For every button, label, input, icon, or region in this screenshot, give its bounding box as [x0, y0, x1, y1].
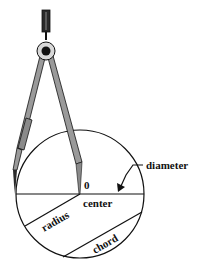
- compass-circle-diagram: 0 center diameter radius chord: [0, 0, 204, 269]
- diameter-label: diameter: [146, 159, 188, 171]
- center-label: center: [83, 197, 112, 209]
- radius-label: radius: [39, 208, 72, 234]
- center-mark-label: 0: [84, 179, 90, 191]
- chord-label: chord: [90, 232, 120, 256]
- compass-icon: [13, 10, 82, 194]
